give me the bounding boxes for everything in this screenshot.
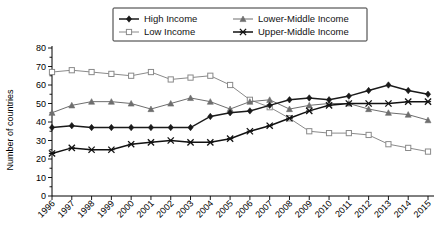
x-tick-label: 1998 <box>75 198 96 219</box>
x-tick-label: 2014 <box>392 198 413 219</box>
legend-label: Lower-Middle Income <box>258 13 349 24</box>
legend-label: High Income <box>144 13 197 24</box>
y-tick-label: 70 <box>36 62 46 72</box>
x-tick-label: 1999 <box>95 198 116 219</box>
y-tick-label: 50 <box>36 99 46 109</box>
y-axis-title: Number of countries <box>5 89 15 171</box>
x-tick-label: 2007 <box>253 198 274 219</box>
x-tick-label: 2002 <box>154 198 175 219</box>
legend-label: Upper-Middle Income <box>258 26 349 37</box>
x-tick-label: 2015 <box>412 198 433 219</box>
chart-figure: High IncomeLow IncomeLower-Middle Income… <box>0 0 440 237</box>
y-tick-label: 20 <box>36 154 46 164</box>
x-tick-label: 2010 <box>313 198 334 219</box>
x-tick-label: 2006 <box>234 198 255 219</box>
series-container <box>49 68 431 157</box>
x-tick-label: 2001 <box>135 198 156 219</box>
x-axis: 1996199719981999200020012002200320042005… <box>36 196 434 220</box>
x-tick-label: 1997 <box>55 198 76 219</box>
y-tick-label: 0 <box>41 191 46 201</box>
y-tick-label: 30 <box>36 136 46 146</box>
x-tick-label: 2009 <box>293 198 314 219</box>
x-tick-label: 1996 <box>36 198 57 219</box>
x-tick-label: 2003 <box>174 198 195 219</box>
x-tick-label: 2011 <box>333 198 354 219</box>
series-low-income <box>49 68 430 155</box>
y-tick-label: 60 <box>36 80 46 90</box>
series-lower-middle-income <box>49 95 431 123</box>
y-axis: 01020304050607080 <box>36 43 52 201</box>
line-chart: High IncomeLow IncomeLower-Middle Income… <box>0 0 440 237</box>
x-tick-label: 2008 <box>273 198 294 219</box>
chart-legend: High IncomeLow IncomeLower-Middle Income… <box>113 8 367 41</box>
series-high-income <box>49 82 430 131</box>
y-tick-label: 10 <box>36 173 46 183</box>
x-tick-label: 2013 <box>372 198 393 219</box>
x-tick-label: 2005 <box>214 198 235 219</box>
legend-label: Low Income <box>144 26 195 37</box>
x-tick-label: 2000 <box>115 198 136 219</box>
x-tick-label: 2012 <box>352 198 373 219</box>
y-tick-label: 40 <box>36 117 46 127</box>
y-tick-label: 80 <box>36 43 46 53</box>
x-tick-label: 2004 <box>194 198 215 219</box>
